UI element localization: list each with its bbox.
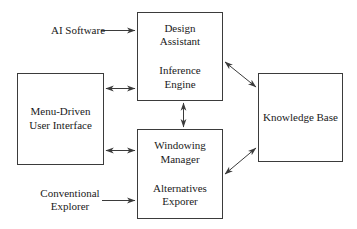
node-windowing-manager-group-0: Windowing Manager <box>154 139 206 167</box>
node-alternatives-exporer-group-1: Alternatives Exporer <box>153 182 207 210</box>
node-knowledge-base[interactable]: Knowledge Base <box>258 73 343 162</box>
node-windowing-manager-line-0: Windowing <box>154 139 206 153</box>
node-knowledge-base-group-0: Knowledge Base <box>263 111 338 125</box>
node-windowing-manager[interactable]: Windowing Manager Alternatives Exporer <box>137 129 223 219</box>
connector-windowing-manager-to-knowledge-base <box>225 148 256 174</box>
node-windowing-manager-line-1: Manager <box>160 153 199 167</box>
node-design-assistant-line-1: Assistant <box>160 35 200 49</box>
node-menu-driven-user-interface[interactable]: Menu-Driven User Interface <box>17 73 104 165</box>
node-menu-driven-user-interface-line-1: User Interface <box>29 119 92 133</box>
label-ai-software: AI Software <box>40 24 116 37</box>
node-design-assistant[interactable]: Design Assistant Inference Engine <box>137 12 223 101</box>
connector-design-assistant-to-knowledge-base <box>225 62 256 87</box>
node-inference-engine-line-0: Inference <box>159 64 201 78</box>
node-design-assistant-group-0: Design Assistant <box>160 22 200 50</box>
label-conventional-explorer-line-0: Conventional <box>22 187 118 200</box>
node-alternatives-exporer-line-1: Exporer <box>162 195 197 209</box>
node-design-assistant-group-1: Inference Engine <box>159 64 201 92</box>
node-alternatives-exporer-line-0: Alternatives <box>153 182 207 196</box>
node-knowledge-base-line-0: Knowledge Base <box>263 111 338 125</box>
node-menu-driven-user-interface-group-0: Menu-Driven User Interface <box>29 105 92 133</box>
label-conventional-explorer-line-1: Explorer <box>22 200 118 213</box>
node-design-assistant-line-0: Design <box>164 22 195 36</box>
label-ai-software-line-0: AI Software <box>40 24 116 37</box>
diagram-canvas: Design Assistant Inference Engine Window… <box>0 0 357 229</box>
label-conventional-explorer: Conventional Explorer <box>22 187 118 213</box>
node-menu-driven-user-interface-line-0: Menu-Driven <box>31 105 91 119</box>
node-inference-engine-line-1: Engine <box>164 78 195 92</box>
